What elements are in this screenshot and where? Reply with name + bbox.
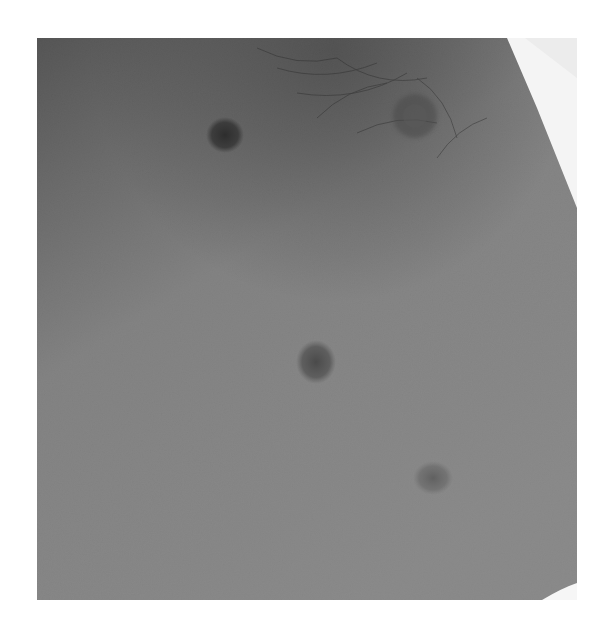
- skin-photo-canvas: [37, 38, 577, 600]
- macule-lower-right: [413, 461, 453, 495]
- macule-center: [296, 340, 336, 384]
- macule-upper-left: [206, 117, 244, 153]
- skin-texture: [37, 38, 577, 600]
- skin-photograph: [37, 38, 577, 600]
- nipple: [403, 104, 427, 128]
